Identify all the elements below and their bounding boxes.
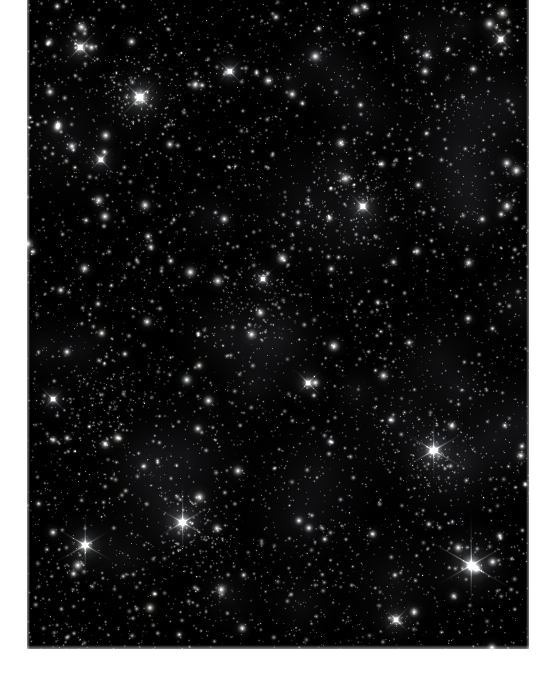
star-field-image (27, 0, 529, 649)
star-field-canvas (27, 0, 529, 649)
page-background (0, 0, 557, 674)
